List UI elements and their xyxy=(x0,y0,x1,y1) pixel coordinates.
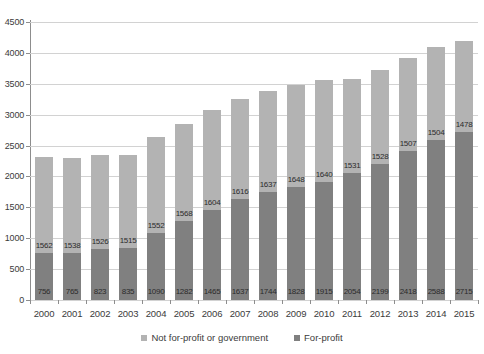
bar-value-label: 756 xyxy=(38,288,50,296)
x-axis-tick-label: 2005 xyxy=(174,308,195,319)
x-tick-mark xyxy=(394,300,395,304)
y-tick-mark xyxy=(26,22,30,23)
bar-column: 17441637 xyxy=(259,91,276,300)
x-tick-mark xyxy=(478,300,479,304)
bar-value-label: 1478 xyxy=(456,121,473,129)
bar-value-label: 1562 xyxy=(36,242,53,250)
gridline xyxy=(30,53,478,54)
bar-value-label: 1507 xyxy=(400,140,417,148)
bar-segment-not-for-profit-or-government: 1562 xyxy=(35,157,52,253)
bar-segment-not-for-profit-or-government: 1504 xyxy=(427,47,444,140)
stacked-bar-chart: 0500100015002000250030003500400045007561… xyxy=(0,0,484,354)
bar-segment-not-for-profit-or-government: 1538 xyxy=(63,158,80,253)
x-axis-tick-label: 2006 xyxy=(202,308,223,319)
bar-column: 8351515 xyxy=(119,155,136,300)
bar-value-label: 1282 xyxy=(176,288,193,296)
bar-column: 25881504 xyxy=(427,47,444,300)
legend-item[interactable]: For-profit xyxy=(294,332,343,343)
bar-value-label: 1526 xyxy=(92,238,109,246)
bar-column: 12821568 xyxy=(175,124,192,300)
bar-segment-for-profit: 756 xyxy=(35,253,52,300)
bar-segment-for-profit: 1282 xyxy=(175,221,192,300)
bar-value-label: 1528 xyxy=(372,153,389,161)
y-tick-mark xyxy=(26,115,30,116)
x-tick-mark xyxy=(198,300,199,304)
bar-segment-not-for-profit-or-government: 1637 xyxy=(259,91,276,192)
plot-area: 0500100015002000250030003500400045007561… xyxy=(30,22,478,300)
bar-column: 7561562 xyxy=(35,157,52,300)
y-axis-tick-label: 2500 xyxy=(5,141,24,151)
bar-segment-for-profit: 1090 xyxy=(147,233,164,300)
y-tick-mark xyxy=(26,53,30,54)
bar-value-label: 1616 xyxy=(232,188,249,196)
bar-value-label: 1568 xyxy=(176,210,193,218)
legend-item[interactable]: Not for-profit or government xyxy=(141,332,268,343)
x-tick-mark xyxy=(422,300,423,304)
bar-value-label: 1531 xyxy=(344,162,361,170)
x-tick-mark xyxy=(58,300,59,304)
x-axis-tick-label: 2003 xyxy=(118,308,139,319)
bar-column: 20541531 xyxy=(343,79,360,300)
y-tick-mark xyxy=(26,269,30,270)
bar-segment-not-for-profit-or-government: 1552 xyxy=(147,137,164,233)
y-axis-tick-label: 500 xyxy=(10,264,24,274)
bar-segment-for-profit: 835 xyxy=(119,248,136,300)
bar-segment-not-for-profit-or-government: 1568 xyxy=(175,124,192,221)
bar-segment-for-profit: 2054 xyxy=(343,173,360,300)
x-axis-tick-label: 2012 xyxy=(370,308,391,319)
x-tick-mark xyxy=(338,300,339,304)
y-tick-mark xyxy=(26,146,30,147)
bar-segment-for-profit: 2199 xyxy=(371,164,388,300)
bar-segment-not-for-profit-or-government: 1531 xyxy=(343,79,360,174)
bar-segment-not-for-profit-or-government: 1526 xyxy=(91,155,108,249)
x-tick-mark xyxy=(254,300,255,304)
x-tick-mark xyxy=(86,300,87,304)
bar-column: 14651604 xyxy=(203,110,220,300)
x-axis-tick-label: 2014 xyxy=(426,308,447,319)
bar-column: 7651538 xyxy=(63,158,80,300)
bar-segment-not-for-profit-or-government: 1648 xyxy=(287,85,304,187)
y-axis-tick-label: 3500 xyxy=(5,79,24,89)
bar-column: 21991528 xyxy=(371,70,388,300)
x-tick-mark xyxy=(450,300,451,304)
bar-value-label: 2715 xyxy=(456,288,473,296)
x-axis-tick-label: 2002 xyxy=(90,308,111,319)
y-axis-tick-label: 2000 xyxy=(5,171,24,181)
bar-value-label: 1090 xyxy=(148,288,165,296)
bar-value-label: 1637 xyxy=(232,288,249,296)
y-axis-tick-label: 0 xyxy=(19,295,24,305)
bar-value-label: 1515 xyxy=(120,237,137,245)
bar-segment-for-profit: 1915 xyxy=(315,182,332,300)
bar-column: 19151640 xyxy=(315,80,332,300)
bar-segment-not-for-profit-or-government: 1616 xyxy=(231,99,248,199)
bar-value-label: 1538 xyxy=(64,242,81,250)
legend-label: Not for-profit or government xyxy=(151,332,268,343)
y-tick-mark xyxy=(26,84,30,85)
bar-segment-not-for-profit-or-government: 1640 xyxy=(315,80,332,181)
legend-swatch-icon xyxy=(294,335,300,341)
y-tick-mark xyxy=(26,207,30,208)
bar-segment-not-for-profit-or-government: 1528 xyxy=(371,70,388,164)
bar-segment-for-profit: 765 xyxy=(63,253,80,300)
x-tick-mark xyxy=(142,300,143,304)
bar-value-label: 1552 xyxy=(148,222,165,230)
y-axis-tick-label: 4000 xyxy=(5,48,24,58)
y-axis-tick-label: 1000 xyxy=(5,233,24,243)
bar-value-label: 1604 xyxy=(204,199,221,207)
bar-segment-not-for-profit-or-government: 1478 xyxy=(455,41,472,132)
y-tick-mark xyxy=(26,238,30,239)
x-axis-tick-label: 2008 xyxy=(258,308,279,319)
x-tick-mark xyxy=(170,300,171,304)
bar-segment-for-profit: 2715 xyxy=(455,132,472,300)
x-tick-mark xyxy=(310,300,311,304)
bar-column: 24181507 xyxy=(399,58,416,300)
x-axis-tick-label: 2010 xyxy=(314,308,335,319)
bar-value-label: 1465 xyxy=(204,288,221,296)
x-tick-mark xyxy=(114,300,115,304)
x-tick-mark xyxy=(366,300,367,304)
bar-segment-for-profit: 2418 xyxy=(399,151,416,300)
y-axis-tick-label: 4500 xyxy=(5,17,24,27)
bar-column: 8231526 xyxy=(91,155,108,300)
bar-segment-for-profit: 1465 xyxy=(203,210,220,301)
bar-value-label: 2588 xyxy=(428,288,445,296)
